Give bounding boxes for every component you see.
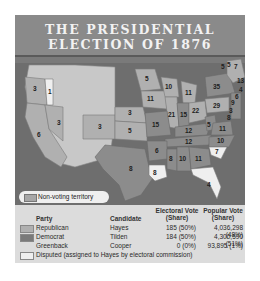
ev-label-wv: 5 (207, 121, 211, 128)
ev-label-nh: 5 (227, 61, 231, 68)
title-line-2: ELECTION OF 1876 (15, 37, 245, 52)
ev-label-de: 3 (229, 107, 233, 114)
legend-row-democrat: Democrat Tilden 184 (50%) 4,300,590 (51%… (15, 233, 245, 242)
ev-label-co: 3 (98, 123, 102, 130)
ev-label-tn: 12 (185, 138, 193, 145)
title-line-1: THE PRESIDENTIAL (15, 22, 245, 37)
party-name: Republican (36, 224, 69, 231)
header-popular-vote-title: Popular Vote (201, 207, 245, 214)
non-voting-label: Non-voting territory (38, 193, 93, 200)
ev-label-tx: 8 (129, 165, 133, 172)
ev-label-ny: 35 (213, 83, 221, 90)
ev-label-ca: 6 (37, 131, 41, 138)
ev-label-ne: 3 (128, 109, 132, 116)
map-figure: THE PRESIDENTIAL ELECTION OF 1876 (15, 15, 245, 263)
ev-label-ks: 5 (128, 127, 132, 134)
ev-label-wi: 10 (165, 83, 173, 90)
ev-label-fl: 4 (207, 181, 211, 188)
us-map-svg: 3 1 3 6 3 3 5 5 11 10 11 21 15 22 15 12 … (15, 57, 245, 205)
popular-vote: 93,895 (1%) (198, 242, 243, 249)
party-name: Democrat (36, 233, 64, 240)
ev-label-ms: 8 (169, 155, 173, 162)
republican-swatch (20, 225, 34, 233)
header-electoral-vote-title: Electoral Vote (154, 207, 200, 214)
candidate-name: Cooper (110, 242, 131, 249)
candidate-name: Hayes (110, 224, 128, 231)
ev-label-mn: 5 (145, 75, 149, 82)
header-popular-vote-sub: (Share) (201, 214, 245, 221)
header-electoral-vote: Electoral Vote (Share) (154, 207, 200, 221)
header-candidate: Candidate (110, 215, 141, 222)
title-banner: THE PRESIDENTIAL ELECTION OF 1876 (15, 15, 245, 57)
ev-label-ri: 4 (239, 86, 243, 93)
ev-label-sc: 7 (215, 148, 219, 155)
ev-label-vt: 5 (221, 63, 225, 70)
header-popular-vote: Popular Vote (Share) (201, 207, 245, 221)
ev-label-nv: 3 (57, 119, 61, 126)
ev-label-mo: 15 (152, 121, 160, 128)
ev-label-oh: 22 (192, 107, 200, 114)
ev-label-me: 7 (234, 63, 238, 70)
legend-table: Party Candidate Electoral Vote (Share) P… (15, 205, 245, 263)
state-iowa (141, 91, 167, 109)
electoral-vote: 184 (50%) (154, 233, 196, 240)
ev-label-md: 8 (227, 114, 231, 121)
state-florida-disputed (191, 167, 221, 199)
ev-label-il: 21 (168, 111, 176, 118)
legend-row-republican: Republican Hayes 185 (50%) 4,036,298 (48… (15, 224, 245, 233)
disputed-swatch (20, 252, 34, 260)
ev-label-va: 11 (219, 125, 226, 132)
ev-label-in: 15 (180, 111, 188, 118)
legend-row-disputed: Disputed (assigned to Hayes by electoral… (15, 251, 245, 260)
ev-label-ga: 11 (195, 155, 202, 162)
ev-label-la: 8 (153, 169, 157, 176)
ev-label-al: 10 (179, 155, 187, 162)
non-voting-key: Non-voting territory (19, 191, 109, 203)
democrat-swatch (20, 234, 34, 242)
ev-label-ar: 6 (155, 147, 159, 154)
ev-label-nc: 10 (217, 137, 225, 144)
party-name: Greenback (36, 242, 68, 249)
ev-label-mi: 11 (185, 89, 192, 96)
ev-label-pa: 29 (213, 102, 221, 109)
ev-label-ma: 13 (237, 77, 245, 84)
ev-label-or-disputed: 1 (48, 88, 52, 95)
ev-label-ia: 11 (147, 95, 154, 102)
ev-label-or: 3 (33, 85, 37, 92)
candidate-name: Tilden (110, 233, 127, 240)
non-voting-swatch (24, 194, 37, 202)
us-map: 3 1 3 6 3 3 5 5 11 10 11 21 15 22 15 12 … (15, 57, 245, 205)
header-party: Party (36, 215, 52, 222)
ev-label-ky: 12 (185, 127, 193, 134)
ev-label-ct: 6 (235, 93, 239, 100)
electoral-vote: 185 (50%) (154, 224, 196, 231)
ev-label-nj: 9 (231, 99, 235, 106)
electoral-vote: 0 (0%) (154, 242, 196, 249)
disputed-label: Disputed (assigned to Hayes by electoral… (36, 251, 192, 258)
legend-row-greenback: Greenback Cooper 0 (0%) 93,895 (1%) (15, 242, 245, 251)
header-electoral-vote-sub: (Share) (154, 214, 200, 221)
